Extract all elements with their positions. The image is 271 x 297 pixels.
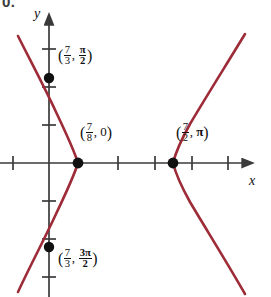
paren-close: ) [203, 124, 208, 141]
point-label-lower-left: (73, 3π2) [58, 248, 98, 271]
paren-close: ) [87, 47, 92, 64]
fraction-denominator: 2 [182, 133, 189, 144]
paren-open: ( [58, 250, 63, 267]
fraction-denominator: 8 [86, 133, 93, 144]
fraction-seven-thirds: 73 [64, 45, 71, 68]
fraction-seven-eighths: 78 [86, 122, 93, 145]
fraction-seven-thirds: 73 [64, 248, 71, 271]
fraction-denominator: 2 [79, 259, 92, 270]
point-right-vertex-dot [168, 158, 179, 169]
fraction-denominator: 3 [64, 259, 71, 270]
fraction-denominator: 3 [64, 56, 71, 67]
x-axis-label: x [249, 173, 255, 189]
fraction-three-pi-over-two: 3π2 [79, 248, 92, 271]
polar-conic-figure: 0. [0, 0, 271, 297]
curve-right-branch [173, 34, 245, 294]
paren-open: ( [80, 124, 85, 141]
point-upper-left-dot [44, 73, 54, 83]
paren-open: ( [58, 47, 63, 64]
label-comma: , [190, 124, 193, 139]
fraction-denominator: 2 [79, 56, 87, 67]
plot-canvas [0, 0, 271, 297]
fraction-seven-halves: 72 [182, 122, 189, 145]
label-comma: , [94, 124, 97, 139]
point-label-left-vertex: (78, 0) [80, 122, 112, 145]
point-label-upper-left: (73, π2) [58, 45, 92, 68]
point-lower-left-dot [44, 242, 54, 252]
point-left-vertex-dot [73, 158, 84, 169]
label-comma: , [72, 47, 75, 62]
paren-open: ( [176, 124, 181, 141]
point-label-right-vertex: (72, π) [176, 122, 209, 145]
paren-close: ) [107, 124, 112, 141]
y-axis-label: y [34, 6, 40, 22]
label-comma: , [72, 250, 75, 265]
fraction-pi-over-two: π2 [79, 45, 87, 68]
paren-close: ) [92, 250, 97, 267]
